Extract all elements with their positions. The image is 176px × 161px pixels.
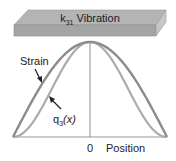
q3-label: q3(x) bbox=[53, 113, 76, 127]
beam: k31 Vibration bbox=[14, 10, 166, 36]
strain-label: Strain bbox=[20, 55, 49, 67]
strain-arrow-icon bbox=[35, 69, 42, 83]
zero-tick-label: 0 bbox=[87, 142, 93, 154]
q3-arrow-icon bbox=[49, 96, 61, 109]
k31-vibration-diagram: k31 Vibration Strain q3(x) 0 Position bbox=[0, 0, 176, 161]
beam-front-face bbox=[14, 25, 156, 36]
position-axis-label: Position bbox=[106, 142, 145, 154]
